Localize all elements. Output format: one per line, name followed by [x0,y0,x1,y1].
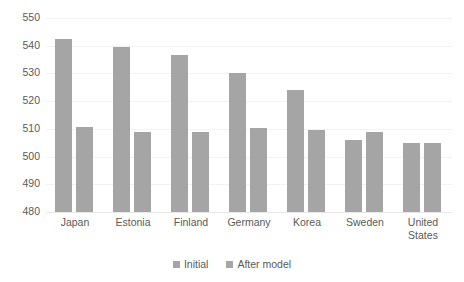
bar-group [46,18,104,212]
bar-after-model[interactable] [424,143,441,212]
bar-group [220,18,278,212]
bar-initial[interactable] [287,90,304,212]
x-tick-label: United States [394,216,452,241]
y-tick-label-490: 490 [0,178,40,189]
y-tick-label-500: 500 [0,151,40,162]
bar-initial[interactable] [229,73,246,212]
legend-label: Initial [184,258,209,270]
x-tick-label: Estonia [104,216,162,229]
x-tick-label: Finland [162,216,220,229]
bar-initial[interactable] [171,55,188,212]
bar-after-model[interactable] [134,132,151,212]
legend-item[interactable]: After model [226,258,291,270]
legend-swatch-icon [226,261,233,268]
x-tick-label: Germany [220,216,278,229]
bar-after-model[interactable] [308,130,325,212]
bar-after-model[interactable] [250,128,267,212]
y-tick-label-550: 550 [0,12,40,23]
y-tick-label-540: 540 [0,40,40,51]
bar-group [278,18,336,212]
legend-swatch-icon [173,261,180,268]
bar-group [162,18,220,212]
bar-chart: 550540530520510500490480 JapanEstoniaFin… [0,0,464,282]
y-tick-label-520: 520 [0,95,40,106]
bar-after-model[interactable] [366,132,383,212]
x-tick-label: Japan [46,216,104,229]
y-tick-label-530: 530 [0,67,40,78]
bar-after-model[interactable] [76,127,93,212]
bar-initial[interactable] [403,143,420,212]
bar-initial[interactable] [55,39,72,212]
y-tick-label-480: 480 [0,206,40,217]
plot-area [46,18,452,212]
bar-initial[interactable] [113,47,130,212]
legend-label: After model [237,258,291,270]
bar-group [336,18,394,212]
bar-group [394,18,452,212]
chart-legend: InitialAfter model [0,258,464,270]
legend-item[interactable]: Initial [173,258,209,270]
bar-initial[interactable] [345,140,362,212]
x-tick-label: Korea [278,216,336,229]
y-tick-label-510: 510 [0,123,40,134]
x-tick-label: Sweden [336,216,394,229]
bar-after-model[interactable] [192,132,209,212]
bar-group [104,18,162,212]
gridline-480 [46,212,452,213]
